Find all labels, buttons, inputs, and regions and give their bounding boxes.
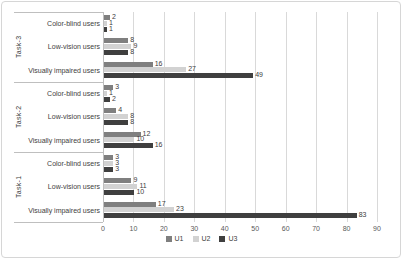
bar-u1 [104,38,128,43]
legend-label: U3 [228,235,237,242]
bar-u2 [104,161,113,166]
bar-chart-figure: 0102030405060708090Task-3Color-blind use… [0,0,403,260]
x-axis-tick-label: 30 [183,225,205,232]
bar-u2 [104,21,107,26]
gridline [347,12,348,222]
bar-value-label: 2 [112,96,116,102]
bar-value-label: 9 [133,177,137,183]
x-axis-tick-label: 50 [244,225,266,232]
x-axis-tick-label: 80 [336,225,358,232]
bar-value-label: 83 [359,212,367,218]
bar-u1 [104,178,131,183]
category-label: Visually impaired users [28,129,100,152]
category-label: Color-blind users [47,152,100,175]
bar-value-label: 8 [130,119,134,125]
legend-item: U1 [166,235,184,242]
bar-u3 [104,73,253,78]
x-axis-tick-label: 40 [214,225,236,232]
legend-swatch-u3 [219,236,225,242]
bar-u3 [104,97,110,102]
bar-u1 [104,202,156,207]
bar-u2 [104,67,186,72]
task-separator [14,222,103,223]
bar-u3 [104,167,113,172]
x-axis-tick-label: 0 [92,225,114,232]
bar-value-label: 16 [155,61,163,67]
bar-u2 [104,44,131,49]
gridline [286,12,287,222]
bar-value-label: 23 [176,206,184,212]
legend-item: U2 [193,235,211,242]
x-axis-tick-label: 20 [153,225,175,232]
bar-value-label: 3 [115,166,119,172]
legend-swatch-u2 [193,236,199,242]
bar-u3 [104,50,128,55]
gridline [255,12,256,222]
category-label: Low-vision users [48,35,100,58]
bar-u2 [104,137,134,142]
bar-value-label: 3 [115,84,119,90]
bar-value-label: 10 [136,189,144,195]
plot-area: 0102030405060708090Task-3Color-blind use… [0,0,403,260]
bar-u3 [104,120,128,125]
x-axis-tick-label: 60 [275,225,297,232]
legend-item: U3 [219,235,237,242]
legend: U1 U2 U3 [0,235,403,242]
gridline [377,12,378,222]
x-axis-tick-label: 90 [366,225,388,232]
category-label: Color-blind users [47,12,100,35]
task-label: Task-1 [13,152,25,222]
legend-swatch-u1 [166,236,172,242]
bar-value-label: 27 [188,66,196,72]
bar-value-label: 16 [155,142,163,148]
bar-u1 [104,108,116,113]
bar-value-label: 10 [136,136,144,142]
bar-u3 [104,190,134,195]
bar-value-label: 17 [158,201,166,207]
legend-label: U1 [175,235,184,242]
bar-value-label: 4 [118,107,122,113]
bar-u2 [104,207,174,212]
task-label: Task-3 [13,12,25,82]
bar-value-label: 8 [130,49,134,55]
bar-u3 [104,27,107,32]
category-label: Visually impaired users [28,59,100,82]
bar-u2 [104,114,128,119]
gridline [194,12,195,222]
bar-u3 [104,143,153,148]
gridline [164,12,165,222]
bar-value-label: 1 [109,26,113,32]
bar-u2 [104,91,107,96]
legend-label: U2 [202,235,211,242]
task-label: Task-2 [13,82,25,152]
bar-u1 [104,155,113,160]
gridline [225,12,226,222]
bar-u1 [104,132,141,137]
category-label: Color-blind users [47,82,100,105]
x-axis-tick-label: 10 [122,225,144,232]
x-axis-tick-label: 70 [305,225,327,232]
category-label: Low-vision users [48,175,100,198]
bar-u3 [104,213,357,218]
bar-value-label: 49 [255,72,263,78]
bar-u1 [104,62,153,67]
category-label: Visually impaired users [28,199,100,222]
gridline [316,12,317,222]
bar-u2 [104,184,137,189]
category-label: Low-vision users [48,105,100,128]
